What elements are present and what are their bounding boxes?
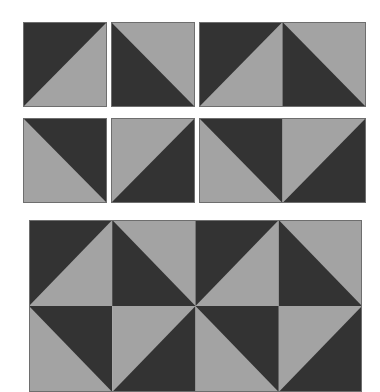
block-grid-4x2 bbox=[29, 220, 362, 392]
block-hst-c bbox=[23, 118, 107, 203]
block-hst-b bbox=[111, 22, 195, 107]
block-pair-bottom bbox=[199, 118, 366, 203]
block-pair-top bbox=[199, 22, 366, 107]
block-hst-a bbox=[23, 22, 107, 107]
block-hst-d bbox=[111, 118, 195, 203]
